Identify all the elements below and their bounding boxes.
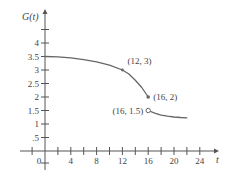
annotation-label: (16, 1.5) — [112, 106, 143, 116]
y-axis-arrow-icon — [43, 9, 48, 14]
axes: 04812162024.511.522.533.54G(t)t — [20, 9, 219, 170]
x-tick-label: 4 — [69, 156, 74, 166]
chart: 04812162024.511.522.533.54G(t)t (12, 3)(… — [0, 0, 227, 178]
x-axis-label: t — [216, 154, 219, 165]
y-tick-label: 3.5 — [28, 52, 40, 62]
x-tick-label: 8 — [94, 156, 99, 166]
plot-area: (12, 3)(16, 2)(16, 1.5) — [45, 56, 187, 118]
y-axis-label: G(t) — [22, 11, 39, 23]
y-tick-label: 3 — [35, 65, 40, 75]
y-tick-label: 2.5 — [28, 79, 40, 89]
x-axis-arrow-icon — [214, 149, 219, 154]
open-point-marker — [146, 108, 150, 112]
x-tick-label: 20 — [170, 156, 180, 166]
x-tick-label: 16 — [144, 156, 154, 166]
series-line-2 — [148, 111, 187, 118]
point-marker — [121, 69, 124, 72]
y-tick-label: 2 — [35, 92, 40, 102]
x-tick-label: 24 — [195, 156, 205, 166]
annotation-label: (16, 2) — [153, 92, 177, 102]
closed-point-marker — [146, 95, 150, 99]
y-tick-label: 4 — [35, 38, 40, 48]
y-tick-label: 1 — [35, 119, 40, 129]
annotation-label: (12, 3) — [127, 56, 151, 66]
x-tick-label: 12 — [118, 156, 127, 166]
x-tick-label: 0 — [37, 156, 42, 166]
y-tick-label: .5 — [32, 133, 39, 143]
y-tick-label: 1.5 — [28, 106, 40, 116]
